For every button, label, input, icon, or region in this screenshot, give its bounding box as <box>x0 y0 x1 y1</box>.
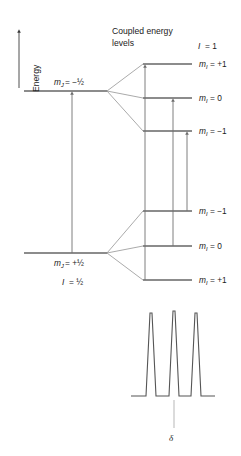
figure-title-line-2: levels <box>112 38 134 48</box>
label-lower-mi-plus1-value: = +1 <box>210 275 227 285</box>
figure-title-line-1: Coupled energy <box>112 26 173 36</box>
label-mj-plus-half-subscript: J <box>60 263 64 269</box>
fan-lines-lower <box>107 211 143 280</box>
label-lower-mi-zero-subscript: I <box>206 246 208 252</box>
label-upper-mi-minus1-subscript: I <box>206 131 208 137</box>
label-mj-minus-half-symbol: m <box>54 77 61 87</box>
label-upper-mi-zero-symbol: m <box>199 93 206 103</box>
label-upper-mi-plus1-symbol: m <box>199 59 206 69</box>
label-mj-minus-half-value: = −½ <box>65 77 84 87</box>
label-lower-mi-minus1-symbol: m <box>199 206 206 216</box>
label-mj-minus-half: m J = −½ <box>54 77 84 88</box>
right-level-lines <box>143 64 192 280</box>
left-level-lines <box>24 91 107 253</box>
label-lower-mi-minus1-subscript: I <box>206 211 208 217</box>
energy-level-figure: Coupled energy levels I = 1 I = ½ m J = … <box>0 0 241 456</box>
label-lower-mi-zero: m I = 0 <box>199 241 222 252</box>
label-lower-mi-plus1-subscript: I <box>206 280 208 286</box>
spin-upper-symbol: I <box>198 41 201 51</box>
spectrum-peaks-path <box>131 311 215 396</box>
label-lower-mi-plus1: m I = +1 <box>199 275 227 286</box>
figure-canvas: Coupled energy levels I = 1 I = ½ m J = … <box>0 0 241 456</box>
label-upper-mi-zero: m I = 0 <box>199 93 222 104</box>
delta-axis-label: δ <box>169 433 174 443</box>
label-lower-mi-plus1-symbol: m <box>199 275 206 285</box>
spin-upper-value: = 1 <box>205 41 217 51</box>
label-upper-mi-minus1-symbol: m <box>199 126 206 136</box>
label-mj-minus-half-subscript: J <box>60 82 64 88</box>
fan-lines-upper <box>107 64 143 131</box>
label-lower-mi-minus1: m I = −1 <box>199 206 227 217</box>
label-mj-plus-half-value: = +½ <box>65 258 84 268</box>
label-upper-mi-minus1-value: = −1 <box>210 126 227 136</box>
fan-lower-to-mi-plus1 <box>107 253 143 280</box>
fan-upper-to-mi-plus1 <box>107 64 143 91</box>
spectrum-trace <box>131 311 215 428</box>
energy-axis-label: Energy <box>31 64 41 92</box>
spin-lower-label: I = ½ <box>62 277 83 287</box>
label-upper-mi-minus1: m I = −1 <box>199 126 227 137</box>
label-mj-plus-half-symbol: m <box>54 258 61 268</box>
label-mj-plus-half: m J = +½ <box>54 258 84 269</box>
label-lower-mi-zero-symbol: m <box>199 241 206 251</box>
spin-lower-value: = ½ <box>69 277 83 287</box>
label-upper-mi-plus1-value: = +1 <box>210 59 227 69</box>
label-lower-mi-zero-value: = 0 <box>210 241 222 251</box>
label-upper-mi-zero-value: = 0 <box>210 93 222 103</box>
label-upper-mi-zero-subscript: I <box>206 98 208 104</box>
label-lower-mi-minus1-value: = −1 <box>210 206 227 216</box>
spin-upper-label: I = 1 <box>198 41 217 51</box>
label-upper-mi-plus1: m I = +1 <box>199 59 227 70</box>
label-upper-mi-plus1-subscript: I <box>206 64 208 70</box>
spin-lower-symbol: I <box>62 277 65 287</box>
